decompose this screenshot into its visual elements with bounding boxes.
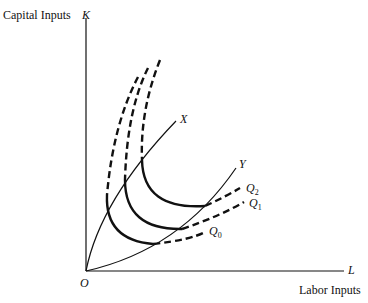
x-axis-title: Labor Inputs [299, 283, 361, 298]
isoquant-q2-solid [142, 160, 205, 206]
y-axis-symbol: K [82, 8, 90, 23]
q2-main: Q [246, 181, 255, 195]
isoquants [107, 60, 244, 244]
isoquant-q2-lower-dashed [205, 188, 240, 206]
isoquant-diagram [0, 0, 368, 303]
isoquant-q0-lower-dashed [153, 232, 205, 244]
x-axis-symbol: L [348, 263, 355, 278]
isoquant-q2-upper-dashed [142, 60, 160, 160]
q1-main: Q [249, 196, 258, 210]
ridge-line-x [86, 121, 176, 271]
q0-main: Q [209, 224, 218, 238]
isoquant-q0-upper-dashed [107, 77, 138, 195]
ridge-y-label: Y [239, 157, 246, 172]
origin-label: O [80, 276, 89, 291]
isoquant-q1-label: Q1 [249, 196, 262, 212]
q0-sub: 0 [218, 231, 222, 240]
isoquant-q2-label: Q2 [246, 181, 259, 197]
ridge-x-label: X [180, 112, 187, 127]
y-axis-title: Capital Inputs [3, 8, 71, 23]
q1-sub: 1 [258, 203, 262, 212]
isoquant-q0-label: Q0 [209, 224, 222, 240]
